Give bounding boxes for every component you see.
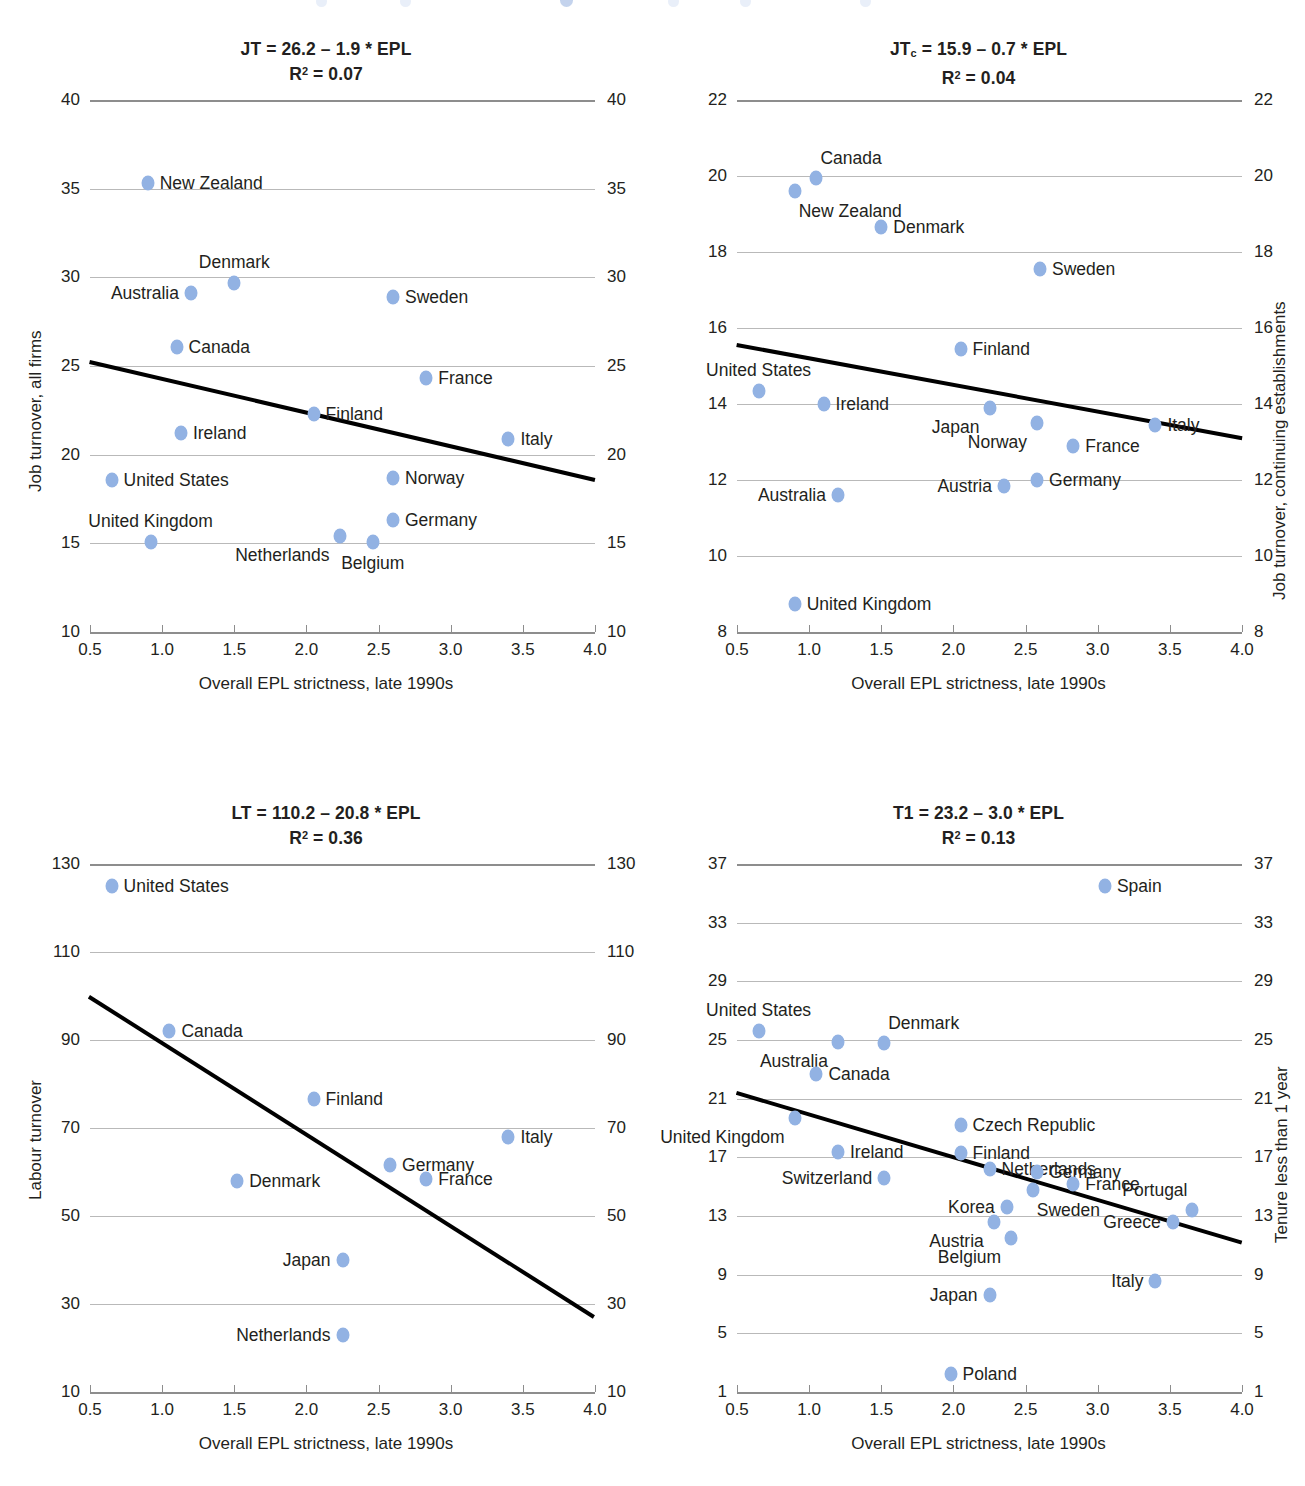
data-point [420,1171,433,1186]
x-tick-label: 1.0 [150,1400,174,1420]
x-tick [737,625,738,632]
chart-job-turnover-all-firms: JT = 26.2 – 1.9 * EPLR2 = 0.071010151520… [0,0,652,740]
y-tick-label-left: 17 [671,1148,727,1165]
x-tick [234,1385,235,1392]
data-point [810,170,823,185]
point-label: Spain [1117,878,1162,895]
x-tick-label: 2.0 [295,1400,319,1420]
y-tick-label-left: 25 [671,1031,727,1048]
x-tick-label: 3.0 [1086,640,1110,660]
data-point [810,1066,823,1081]
data-point [502,431,515,446]
x-tick [953,625,954,632]
chart-equation: T1 = 23.2 – 3.0 * EPLR2 = 0.13 [652,802,1305,849]
y-gridline [90,1392,595,1394]
y-axis-title-right: Job turnover, continuing establishments [1270,301,1290,600]
point-label: Ireland [193,425,247,442]
data-point [366,534,379,549]
point-label: Korea [948,1199,995,1216]
data-point [875,220,888,235]
data-point [231,1173,244,1188]
data-point [336,1253,349,1268]
y-axis-title-right: Tenure less than 1 year [1272,1066,1292,1243]
x-tick-label: 2.5 [1014,640,1038,660]
data-point [1166,1214,1179,1229]
data-point [878,1035,891,1050]
data-point [1005,1231,1018,1246]
r-squared: R2 = 0.07 [0,60,652,85]
y-gridline [737,864,1242,866]
y-tick-label-right: 29 [1254,972,1305,989]
data-point [817,397,830,412]
y-tick-label-right: 1 [1254,1383,1305,1400]
point-label: Germany [405,512,477,529]
data-point [788,1110,801,1125]
point-label: Czech Republic [973,1117,1096,1134]
point-label: Norway [405,469,464,486]
y-tick-label-right: 20 [1254,167,1305,184]
x-tick [953,1385,954,1392]
x-tick-label: 4.0 [1230,1400,1254,1420]
point-label: Finland [973,340,1030,357]
data-point [336,1327,349,1342]
regression-trendline [88,995,595,1319]
y-tick-label-left: 15 [24,534,80,551]
data-point [185,286,198,301]
data-point [1031,1165,1044,1180]
x-tick [90,1385,91,1392]
y-gridline [737,1099,1242,1100]
data-point [170,339,183,354]
point-label: Sweden [1052,261,1115,278]
x-tick [595,625,596,632]
data-point [1031,416,1044,431]
y-tick-label-left: 30 [24,1295,80,1312]
data-point [987,1214,1000,1229]
x-tick-label: 1.0 [797,1400,821,1420]
x-tick-label: 2.5 [1014,1400,1038,1420]
regression-equation: LT = 110.2 – 20.8 * EPL [231,803,420,823]
y-gridline [737,1040,1242,1041]
x-tick-label: 4.0 [583,1400,607,1420]
point-label: Greece [1103,1213,1160,1230]
x-tick-label: 3.0 [439,640,463,660]
y-gridline [90,455,595,456]
regression-equation: JTc = 15.9 – 0.7 * EPL [890,39,1067,59]
point-label: Italy [1167,416,1199,433]
data-point [1185,1203,1198,1218]
point-label: Denmark [893,219,964,236]
x-tick-label: 1.5 [869,1400,893,1420]
x-tick-label: 1.0 [797,640,821,660]
point-label: Canada [828,1065,889,1082]
data-point [1067,1176,1080,1191]
point-label: Belgium [938,1249,1001,1266]
data-point [105,879,118,894]
x-tick-label: 2.0 [942,640,966,660]
y-gridline [737,252,1242,253]
x-tick [162,625,163,632]
x-tick [1098,625,1099,632]
point-label: Australia [111,285,179,302]
point-label: Japan [930,1287,978,1304]
data-point [163,1024,176,1039]
point-label: United Kingdom [88,512,213,529]
y-tick-label-left: 10 [24,1383,80,1400]
x-tick [306,625,307,632]
point-label: Canada [820,149,881,166]
x-tick-label: 3.0 [439,1400,463,1420]
point-label: New Zealand [160,175,263,192]
data-point [954,341,967,356]
x-tick [809,625,810,632]
y-tick-label-left: 30 [24,268,80,285]
y-tick-label-left: 22 [671,91,727,108]
x-tick-label: 1.0 [150,640,174,660]
data-point [983,400,996,415]
x-tick-label: 2.5 [367,640,391,660]
y-tick-label-right: 18 [1254,243,1305,260]
point-label: United Kingdom [660,1128,785,1145]
y-tick-label-left: 90 [24,1031,80,1048]
x-tick-label: 0.5 [78,640,102,660]
data-point [174,426,187,441]
y-tick-label-left: 12 [671,471,727,488]
y-gridline [737,1333,1242,1334]
point-label: Australia [758,487,826,504]
